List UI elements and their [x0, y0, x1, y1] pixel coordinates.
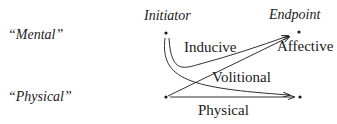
node-physical-endpoint: [298, 95, 301, 98]
edge-label-physical: Physical: [198, 102, 249, 119]
row-label-mental: “Mental”: [8, 27, 63, 43]
edge-label-inducive: Inducive: [184, 39, 236, 56]
edge-label-volitional: Volitional: [212, 69, 271, 86]
column-label-initiator: Initiator: [144, 8, 191, 24]
column-label-endpoint: Endpoint: [269, 7, 320, 23]
node-physical-initiator: [164, 95, 167, 98]
edge-label-affective: Affective: [277, 38, 333, 55]
node-mental-initiator: [164, 31, 167, 34]
row-label-physical: “Physical”: [8, 89, 72, 105]
node-mental-endpoint: [297, 30, 300, 33]
